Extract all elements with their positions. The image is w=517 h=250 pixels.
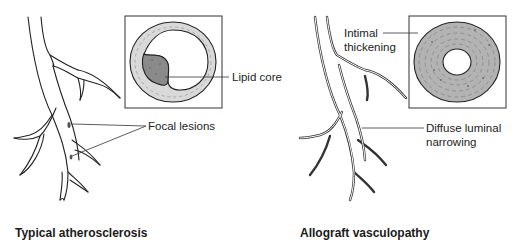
allograft-cross-section: [414, 22, 500, 102]
atherosclerosis-cross-section: [130, 22, 216, 102]
intimal-thickening-label-line2: thickening: [344, 41, 396, 54]
intimal-thickening-label-line1: Intimal: [344, 27, 378, 40]
focal-lesions-leader-1: [72, 124, 146, 126]
atherosclerosis-title: Typical atherosclerosis: [15, 226, 148, 240]
diffuse-narrowing-label-line2: narrowing: [426, 136, 477, 149]
focal-lesions-leader-2: [72, 126, 146, 156]
lipid-core-label: Lipid core: [232, 71, 282, 84]
allograft-title: Allograft vasculopathy: [300, 226, 429, 240]
focal-lesions-label: Focal lesions: [148, 120, 215, 133]
atherosclerosis-vessel-tree: [14, 17, 120, 200]
focal-lesion-marks: [67, 122, 72, 160]
diffuse-narrowing-label-line1: Diffuse luminal: [426, 122, 501, 135]
